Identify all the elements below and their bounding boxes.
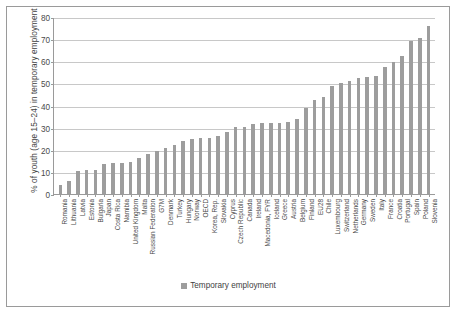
bar-slot: [293, 18, 302, 194]
bar: [304, 108, 308, 194]
x-label-slot: Chile: [319, 199, 328, 271]
x-label-slot: France: [380, 199, 389, 271]
x-tick-mark: [122, 194, 123, 197]
x-label-slot: Namibia: [117, 199, 126, 271]
x-tick-mark: [69, 194, 70, 197]
bar-slot: [82, 18, 91, 194]
x-label-slot: Denmark: [161, 199, 170, 271]
bar-slot: [424, 18, 433, 194]
x-label-slot: Turkey: [169, 199, 178, 271]
bar: [190, 139, 194, 194]
x-axis-tick-labels: RomaniaLithuaniaLatviaEstoniaBulgariaJap…: [53, 199, 435, 271]
bar: [85, 170, 89, 194]
y-tick-label: 20: [41, 146, 50, 155]
x-tick-mark: [332, 194, 333, 197]
y-tick-label: 50: [41, 80, 50, 89]
bar-slot: [205, 18, 214, 194]
bar: [348, 81, 352, 194]
bar: [392, 62, 396, 194]
bar-slot: [152, 18, 161, 194]
x-tick-mark: [367, 194, 368, 197]
x-label-slot: Hungary: [178, 199, 187, 271]
x-tick-mark: [244, 194, 245, 197]
bar-slot: [179, 18, 188, 194]
bar: [181, 141, 185, 194]
x-label-slot: Malta: [134, 199, 143, 271]
x-tick-mark: [166, 194, 167, 197]
x-label-slot: Macedonia, FYR: [257, 199, 266, 271]
bar: [67, 181, 71, 194]
x-tick-mark: [218, 194, 219, 197]
x-tick-mark: [358, 194, 359, 197]
x-tick-mark: [148, 194, 149, 197]
x-label-slot: Korea, Rep.: [205, 199, 214, 271]
x-tick-mark: [323, 194, 324, 197]
bar: [137, 158, 141, 195]
x-tick-mark: [411, 194, 412, 197]
x-label-slot: Poland: [416, 199, 425, 271]
x-tick-mark: [350, 194, 351, 197]
x-label-slot: Romania: [55, 199, 64, 271]
bar: [286, 122, 290, 194]
x-tick-label: Slovenia: [432, 199, 438, 224]
bar-slot: [91, 18, 100, 194]
x-tick-mark: [209, 194, 210, 197]
bar: [243, 127, 247, 194]
bar-slot: [415, 18, 424, 194]
y-tick-label: 40: [41, 102, 50, 111]
y-tick-label: 80: [41, 14, 50, 23]
bar-slot: [249, 18, 258, 194]
bar: [251, 124, 255, 194]
bar-slot: [284, 18, 293, 194]
chart-figure: % of youth (age 15–24) in temporary empl…: [0, 0, 457, 314]
bar: [374, 76, 378, 194]
bar: [357, 78, 361, 194]
x-tick-mark: [420, 194, 421, 197]
x-tick-mark: [201, 194, 202, 197]
legend-label: Temporary employment: [190, 281, 276, 290]
bar-slot: [231, 18, 240, 194]
x-tick-mark: [157, 194, 158, 197]
x-label-slot: Belgium: [293, 199, 302, 271]
x-tick-mark: [95, 194, 96, 197]
x-label-slot: Slovakia: [213, 199, 222, 271]
x-label-slot: Switzerland: [337, 199, 346, 271]
y-tick-label: 60: [41, 58, 50, 67]
bar-slot: [223, 18, 232, 194]
bar: [76, 171, 80, 194]
y-tick-label: 70: [41, 36, 50, 45]
bar: [111, 163, 115, 194]
x-label-slot: Slovenia: [424, 199, 433, 271]
x-tick-mark: [104, 194, 105, 197]
x-tick-mark: [297, 194, 298, 197]
x-label-slot: G7M: [152, 199, 161, 271]
x-label-slot: Spain: [407, 199, 416, 271]
x-label-slot: Lithuania: [64, 199, 73, 271]
x-tick-mark: [192, 194, 193, 197]
x-tick-mark: [315, 194, 316, 197]
bar-slot: [170, 18, 179, 194]
x-tick-mark: [280, 194, 281, 197]
x-tick-mark: [183, 194, 184, 197]
x-label-slot: Italy: [372, 199, 381, 271]
bar-slot: [389, 18, 398, 194]
x-label-slot: Sweden: [363, 199, 372, 271]
x-label-slot: Austria: [284, 199, 293, 271]
bar-slot: [372, 18, 381, 194]
bar: [199, 138, 203, 194]
x-label-slot: Bulgaria: [90, 199, 99, 271]
x-tick-mark: [78, 194, 79, 197]
x-tick-mark: [60, 194, 61, 197]
bar: [339, 83, 343, 194]
x-tick-mark: [253, 194, 254, 197]
bar-slot: [328, 18, 337, 194]
bar: [94, 170, 98, 194]
bar: [129, 162, 133, 194]
x-label-slot: Costa Rica: [108, 199, 117, 271]
x-label-slot: OECD: [196, 199, 205, 271]
x-label-slot: Russian Federation: [143, 199, 152, 271]
x-label-slot: Greece: [275, 199, 284, 271]
x-tick-mark: [113, 194, 114, 197]
bar-slot: [319, 18, 328, 194]
x-tick-mark: [288, 194, 289, 197]
